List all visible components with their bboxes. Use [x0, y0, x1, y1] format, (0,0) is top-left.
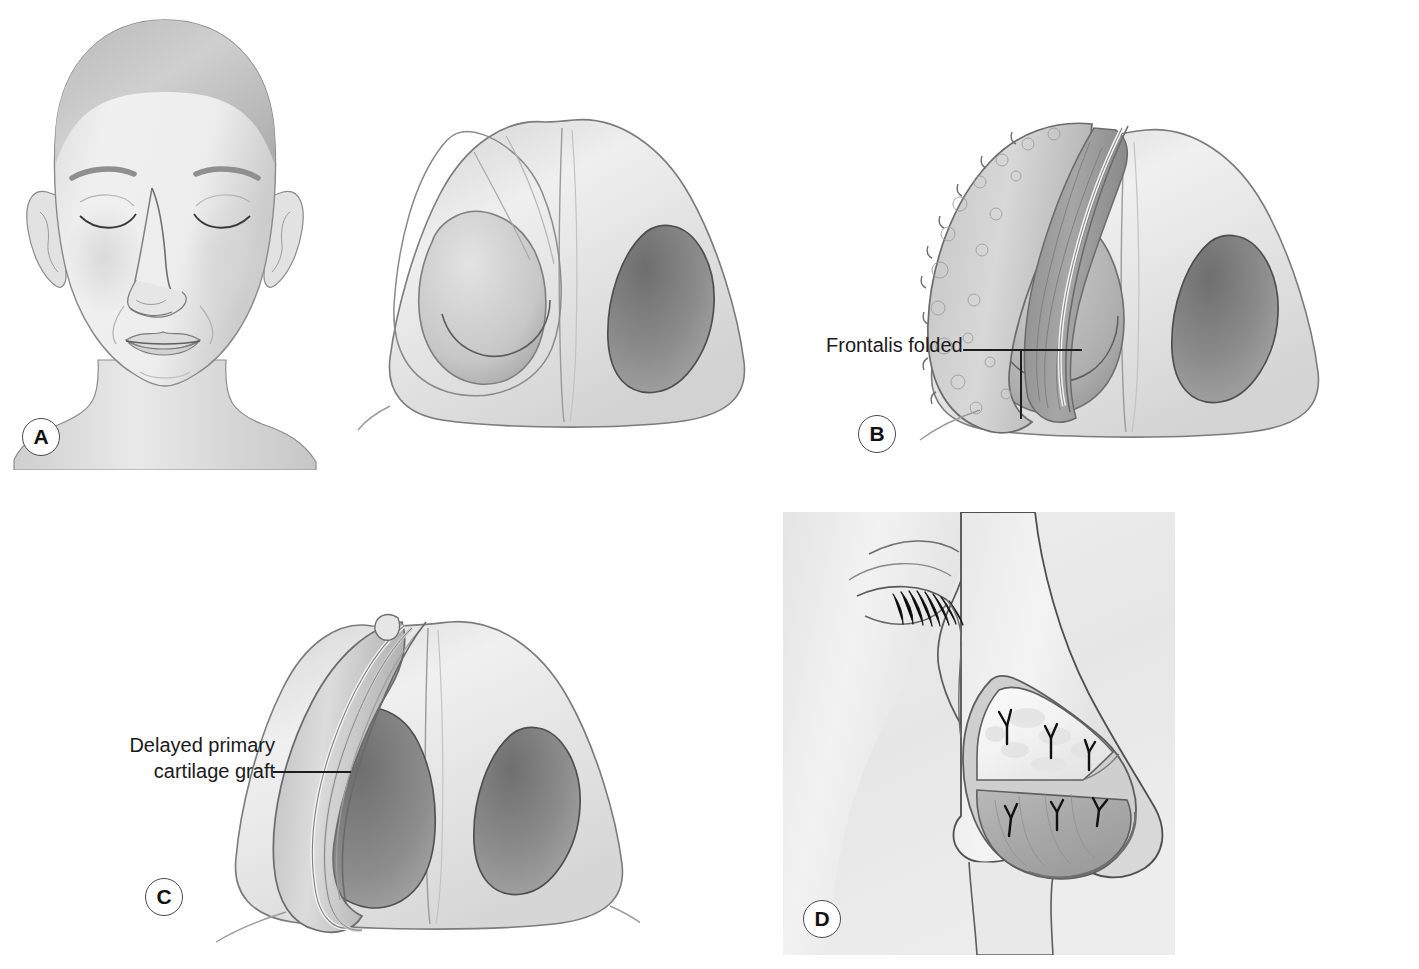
right-cheek-shading	[188, 202, 268, 314]
panel-letter-c: C	[145, 878, 183, 916]
leader-line-cartilage-graft	[273, 771, 351, 773]
panel-b-illustration	[840, 110, 1350, 460]
alar-defect-lump	[419, 211, 546, 384]
panel-letter-a: A	[22, 418, 60, 456]
panel-b-frontalis-folded: Frontalis folded B	[840, 110, 1350, 460]
callout-frontalis-folded: Frontalis folded	[826, 332, 963, 358]
figure-canvas: A	[0, 0, 1419, 969]
leader-line-frontalis-vertical	[1020, 349, 1022, 419]
basal-defect-illustration	[356, 100, 776, 460]
panel-d-illustration	[783, 512, 1175, 955]
panel-c-cartilage-graft: Delayed primary cartilage graft C	[140, 600, 640, 960]
right-cheek-line	[610, 906, 640, 934]
left-cheek-line	[358, 406, 390, 430]
panel-d-lateral-profile: D	[783, 512, 1175, 955]
panel-a-illustration	[0, 0, 330, 470]
callout-delayed-primary-cartilage-graft: Delayed primary cartilage graft	[0, 732, 275, 784]
leader-line-frontalis-horizontal	[963, 349, 1082, 351]
panel-basal-nose-defect	[356, 100, 776, 460]
panel-letter-b: B	[858, 415, 896, 453]
graft-superior-fold	[375, 615, 400, 641]
panel-a-frontal-face: A	[0, 0, 330, 470]
panel-letter-d: D	[803, 900, 841, 938]
